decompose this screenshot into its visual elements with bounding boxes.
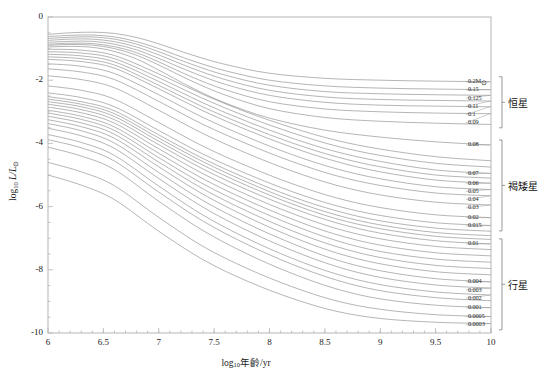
evolution-curve — [48, 37, 491, 96]
evolution-curve — [48, 52, 491, 167]
curve-group — [48, 32, 491, 323]
curve-mass-label: 0.0005 — [468, 312, 485, 319]
evolution-curve — [48, 32, 491, 82]
evolution-curve — [48, 86, 491, 218]
x-tick-label: 8.5 — [305, 337, 345, 347]
y-tick-label: -4 — [13, 137, 43, 147]
group-label-planet: 行星 — [508, 277, 528, 292]
evolution-curve — [48, 44, 491, 124]
evolution-curve — [48, 135, 491, 296]
evolution-curve — [48, 43, 491, 114]
curve-mass-label: 0.04 — [468, 195, 479, 202]
evolution-curve — [48, 102, 491, 240]
x-tick-label: 6.5 — [83, 337, 123, 347]
evolution-curve — [48, 175, 491, 324]
curve-mass-label: 0.004 — [468, 277, 482, 284]
evolutionary-luminosity-chart — [0, 0, 540, 380]
curve-mass-label: 0.06 — [468, 179, 479, 186]
evolution-curve — [48, 49, 491, 161]
group-bracket — [499, 77, 505, 128]
x-tick-label: 7.5 — [194, 337, 234, 347]
curve-mass-label: 0.02 — [468, 213, 479, 220]
curve-mass-label: 0.015 — [468, 221, 482, 228]
x-tick-label: 9 — [360, 337, 400, 347]
evolution-curve — [48, 57, 491, 178]
evolution-curve — [48, 39, 491, 101]
curve-mass-label: 0.01 — [468, 239, 479, 246]
curve-mass-label: 0.03 — [468, 203, 479, 210]
x-tick-label: 7 — [139, 337, 179, 347]
curve-mass-label: 0.003 — [468, 286, 482, 293]
group-label-star: 恒星 — [508, 95, 528, 110]
evolution-curve — [48, 107, 491, 250]
y-tick-label: 0 — [13, 11, 43, 21]
group-bracket — [499, 239, 505, 330]
curve-mass-label: 0.15 — [468, 85, 479, 92]
x-tick-label: 8 — [250, 337, 290, 347]
x-tick-label: 9.5 — [416, 337, 456, 347]
group-brackets — [499, 77, 505, 330]
curve-mass-label: 0.1 — [468, 110, 476, 117]
y-tick-label: -8 — [13, 264, 43, 274]
group-label-brown_dwarf: 褐矮星 — [508, 178, 538, 193]
evolution-curve — [48, 59, 491, 183]
x-tick-label: 10 — [471, 337, 511, 347]
group-bracket — [499, 140, 505, 231]
y-tick-label: -10 — [13, 327, 43, 337]
evolution-curve — [48, 64, 491, 190]
x-tick-label: 6 — [28, 337, 68, 347]
curve-mass-label: 0.125 — [468, 94, 482, 101]
curve-mass-label: 0.08 — [468, 140, 479, 147]
evolution-curve — [48, 140, 491, 301]
curve-mass-label: 0.002 — [468, 294, 482, 301]
evolution-curve — [48, 41, 491, 107]
x-axis-label: log10年齡/yr — [0, 355, 492, 369]
curve-mass-label: 0.09 — [468, 118, 479, 125]
curve-mass-label: 0.0003 — [468, 320, 485, 327]
curve-mass-label: 0.05 — [468, 187, 479, 194]
curve-mass-label: 0.11 — [468, 102, 478, 109]
curve-mass-label: 0.07 — [468, 169, 479, 176]
y-tick-label: -2 — [13, 74, 43, 84]
evolution-curve — [48, 35, 491, 90]
y-tick-label: -6 — [13, 201, 43, 211]
curve-mass-label: 0.001 — [468, 303, 482, 310]
